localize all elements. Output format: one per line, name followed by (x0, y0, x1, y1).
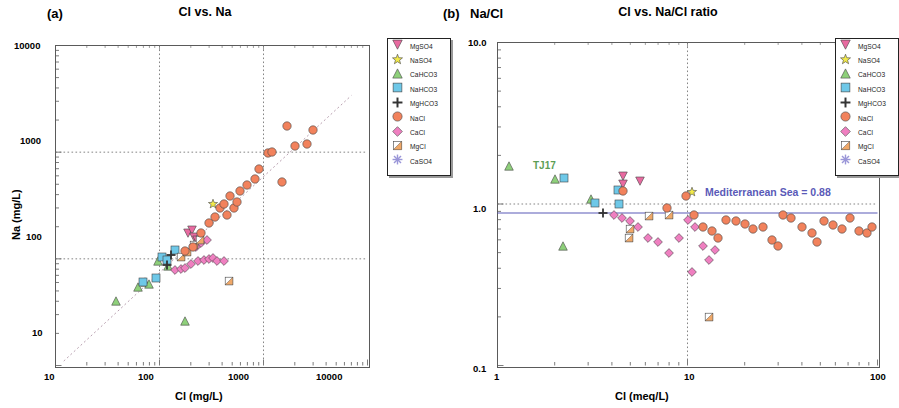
legend-item-cahco3: CaHCO3 (836, 68, 898, 82)
data-point-cacl (674, 233, 684, 243)
data-point-cahco3 (504, 161, 514, 171)
mediterranean-sea-annotation: Mediterranean Sea = 0.88 (705, 186, 831, 198)
legend-item-cacl: CaCl (836, 125, 898, 139)
data-point-nacl (698, 222, 708, 232)
triangle-down-icon (840, 39, 854, 53)
data-point-cacl (687, 267, 697, 277)
legend-item-label: NaCl (858, 115, 873, 122)
data-point-mgcl (704, 312, 714, 322)
data-point-nahco3 (590, 198, 600, 208)
data-point-cahco3 (550, 174, 560, 184)
legend-item-label: NaSO4 (858, 57, 880, 64)
legend-item-label: MgHCO3 (858, 100, 886, 107)
data-point-cacl (653, 237, 663, 247)
data-point-nahco3 (559, 173, 569, 183)
legend-item-label: NaHCO3 (858, 86, 885, 93)
legend-item-nahco3: NaHCO3 (836, 82, 898, 96)
data-point-nacl (786, 213, 796, 223)
data-point-nacl (681, 191, 691, 201)
tj17-point-label: TJ17 (533, 160, 556, 171)
data-point-mgcl (624, 233, 634, 243)
star-icon (840, 54, 854, 68)
data-point-nacl (837, 224, 847, 234)
legend-item-naso4: NaSO4 (836, 53, 898, 67)
data-point-mgso4 (635, 176, 645, 186)
data-point-cacl (710, 245, 720, 255)
square-icon (840, 82, 854, 96)
circle-icon (840, 111, 854, 125)
data-point-nacl (662, 203, 672, 213)
data-point-cacl (643, 233, 653, 243)
data-point-cacl (664, 248, 674, 258)
square-half-icon (840, 140, 854, 154)
legend-item-nacl: NaCl (836, 111, 898, 125)
panel-b-legend: MgSO4NaSO4CaHCO3NaHCO3MgHCO3NaClCaClMgCl… (835, 38, 899, 176)
data-point-nacl (867, 222, 877, 232)
legend-item-mghco3: MgHCO3 (836, 97, 898, 111)
diamond-icon (840, 126, 854, 140)
data-point-nacl (618, 186, 628, 196)
legend-item-caso4: CaSO4 (836, 154, 898, 168)
data-point-nacl (773, 241, 783, 251)
plus-icon (840, 97, 854, 111)
legend-item-label: CaSO4 (858, 158, 880, 165)
legend-item-label: MgSO4 (858, 43, 881, 50)
legend-item-label: MgCl (858, 143, 874, 150)
data-point-mgcl (644, 211, 654, 221)
triangle-up-icon (840, 68, 854, 82)
data-point-nacl (689, 210, 699, 220)
legend-item-mgso4: MgSO4 (836, 39, 898, 53)
data-point-cacl (698, 241, 708, 251)
legend-item-label: CaHCO3 (858, 71, 885, 78)
legend-item-label: CaCl (858, 129, 873, 136)
data-point-mghco3 (598, 208, 608, 218)
data-point-nacl (713, 233, 723, 243)
data-point-nacl (797, 222, 807, 232)
data-point-nacl (748, 224, 758, 234)
data-point-nacl (812, 237, 822, 247)
legend-item-mgcl: MgCl (836, 140, 898, 154)
data-point-cahco3 (558, 241, 568, 251)
data-point-nacl (721, 215, 731, 225)
data-point-nahco3 (614, 199, 624, 209)
data-point-cacl (704, 255, 714, 265)
data-point-nacl (758, 222, 768, 232)
data-point-nacl (845, 213, 855, 223)
asterisk-icon (840, 154, 854, 168)
